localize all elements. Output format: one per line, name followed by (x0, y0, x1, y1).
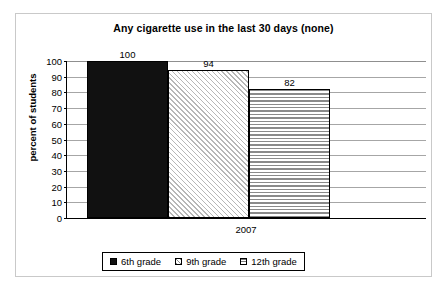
y-axis-tick-label: 100 (46, 56, 62, 67)
y-axis-tick-label: 30 (51, 166, 62, 177)
y-axis-tick-label: 10 (51, 197, 62, 208)
legend-swatch-icon (240, 258, 247, 265)
legend-label: 12th grade (251, 256, 296, 267)
y-axis-tick (64, 77, 67, 78)
legend-item-12th-grade[interactable]: 12th grade (240, 256, 296, 267)
plot-area: 1009080706050403020100 1009482 (66, 61, 426, 219)
legend-swatch-icon (175, 258, 182, 265)
chart-legend: 6th grade 9th grade 12th grade (102, 252, 305, 271)
legend-item-6th-grade[interactable]: 6th grade (110, 256, 161, 267)
y-axis-tick-label: 60 (51, 119, 62, 130)
legend-item-9th-grade[interactable]: 9th grade (175, 256, 226, 267)
y-axis-tick (64, 108, 67, 109)
chart-frame: Any cigarette use in the last 30 days (n… (15, 13, 432, 277)
y-axis-tick (64, 171, 67, 172)
bar-value-label: 100 (88, 49, 167, 60)
y-axis-tick (64, 92, 67, 93)
legend-swatch-icon (110, 258, 117, 265)
y-axis-tick (64, 155, 67, 156)
y-axis-tick-label: 70 (51, 103, 62, 114)
legend-label: 9th grade (186, 256, 226, 267)
y-axis-tick (64, 218, 67, 219)
y-axis-tick (64, 124, 67, 125)
y-axis-title: percent of students (27, 58, 38, 178)
y-axis-tick-label: 40 (51, 150, 62, 161)
bar-value-label: 82 (250, 77, 329, 88)
bar-6th-grade[interactable]: 100 (87, 61, 168, 218)
bar-12th-grade[interactable]: 82 (249, 89, 330, 218)
bar-value-label: 94 (169, 58, 248, 69)
bar-9th-grade[interactable]: 94 (168, 70, 249, 218)
y-axis-tick-label: 80 (51, 87, 62, 98)
y-axis-tick (64, 202, 67, 203)
y-axis-tick-label: 90 (51, 72, 62, 83)
y-axis-tick (64, 187, 67, 188)
y-axis-tick-label: 20 (51, 182, 62, 193)
x-axis-category-label: 2007 (66, 224, 426, 235)
y-axis-tick-label: 50 (51, 135, 62, 146)
y-axis-tick (64, 140, 67, 141)
y-axis-tick-label: 0 (57, 213, 62, 224)
legend-label: 6th grade (121, 256, 161, 267)
y-axis-tick (64, 61, 67, 62)
chart-title: Any cigarette use in the last 30 days (n… (16, 22, 431, 34)
